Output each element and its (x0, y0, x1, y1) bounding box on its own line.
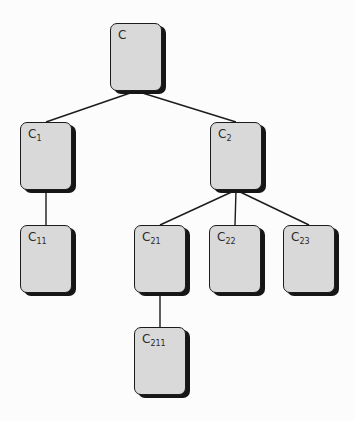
node-c: C (110, 23, 162, 91)
node-label-c21: C21 (142, 231, 161, 243)
node-label-c22: C22 (217, 231, 236, 243)
node-label-c1: C1 (28, 128, 41, 140)
node-c211: C211 (134, 327, 186, 395)
node-c11: C11 (20, 225, 72, 293)
node-label-c2: C2 (218, 128, 231, 140)
node-label-c: C (118, 29, 126, 41)
node-c2: C2 (210, 122, 262, 190)
edge-c2-c23 (236, 190, 309, 225)
tree-diagram: C C1 C2 C11 C21 C22 C23 C211 (0, 0, 354, 421)
node-c23: C23 (283, 225, 335, 293)
edge-c2-c22 (235, 190, 236, 225)
node-c21: C21 (134, 225, 186, 293)
edge-c-c1 (46, 91, 136, 122)
edge-c2-c21 (160, 190, 236, 225)
node-c1: C1 (20, 122, 72, 190)
edge-c-c2 (136, 91, 236, 122)
node-label-c23: C23 (291, 231, 310, 243)
node-label-c11: C11 (28, 231, 47, 243)
node-c22: C22 (209, 225, 261, 293)
node-label-c211: C211 (142, 333, 166, 345)
